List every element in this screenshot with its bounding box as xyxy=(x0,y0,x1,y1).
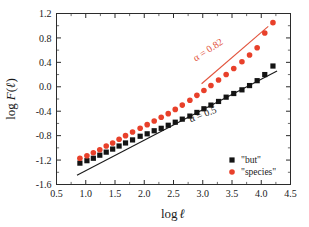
x-tick-label: 4.0 xyxy=(255,188,268,199)
y-axis-title: logF(ℓ) xyxy=(3,78,18,120)
series-species-points xyxy=(77,20,276,161)
annotation-alpha-082: α = 0.82 xyxy=(191,36,225,63)
y-tick-label: -0.4 xyxy=(36,106,52,117)
data-point-square xyxy=(216,99,221,104)
data-point-circle xyxy=(208,83,214,89)
x-tick-label: 2.5 xyxy=(167,188,180,199)
data-point-square xyxy=(270,63,275,68)
data-point-square xyxy=(84,158,89,163)
data-point-circle xyxy=(137,126,143,132)
figure-container: 0.51.01.52.02.53.03.54.04.5 1.20.80.40.0… xyxy=(0,0,309,227)
x-axis-tick-labels: 0.51.01.52.02.53.03.54.04.5 xyxy=(50,188,297,199)
data-point-square xyxy=(116,143,121,148)
data-point-square xyxy=(231,91,236,96)
x-tick-label: 2.0 xyxy=(138,188,151,199)
data-point-square xyxy=(123,140,128,145)
data-point-circle xyxy=(144,122,150,128)
data-point-square xyxy=(159,126,164,131)
data-point-circle xyxy=(187,97,193,103)
data-point-circle xyxy=(194,93,200,99)
data-point-square xyxy=(138,134,143,139)
x-tick-label: 4.5 xyxy=(284,188,297,199)
y-tick-label: -1.2 xyxy=(36,155,52,166)
data-point-circle xyxy=(77,155,83,161)
data-point-circle xyxy=(91,150,97,156)
data-point-square xyxy=(262,72,267,77)
x-axis-title: logℓ xyxy=(161,206,186,221)
legend-marker-square xyxy=(229,157,234,162)
data-point-square xyxy=(180,117,185,122)
data-point-square xyxy=(110,146,115,151)
legend-label: "species" xyxy=(241,167,276,177)
data-point-square xyxy=(247,83,252,88)
data-point-circle xyxy=(270,20,276,26)
data-point-square xyxy=(104,150,109,155)
data-point-circle xyxy=(116,137,122,143)
y-tick-label: 0.4 xyxy=(39,57,52,68)
data-point-circle xyxy=(97,147,103,153)
series-but-points xyxy=(77,63,275,165)
x-tick-label: 1.5 xyxy=(109,188,122,199)
data-point-square xyxy=(77,161,82,166)
data-point-circle xyxy=(239,59,245,65)
y-tick-label: 0.8 xyxy=(39,33,52,44)
data-point-circle xyxy=(158,115,164,121)
data-point-circle xyxy=(123,133,129,139)
data-point-square xyxy=(130,137,135,142)
svg-text:logℓ: logℓ xyxy=(161,206,186,221)
data-point-square xyxy=(173,120,178,125)
data-point-circle xyxy=(231,66,237,72)
data-point-square xyxy=(255,78,260,83)
y-tick-label: -0.8 xyxy=(36,130,52,141)
data-point-circle xyxy=(254,45,260,51)
svg-text:logF(ℓ): logF(ℓ) xyxy=(3,78,18,120)
y-axis-title-prefix: log xyxy=(3,103,18,120)
x-tick-label: 1.0 xyxy=(80,188,93,199)
legend-marker-circle xyxy=(229,169,235,175)
data-point-circle xyxy=(201,88,207,94)
data-point-square xyxy=(239,87,244,92)
x-tick-label: 0.5 xyxy=(50,188,63,199)
scatter-plot: 0.51.01.52.02.53.03.54.04.5 1.20.80.40.0… xyxy=(0,0,309,227)
y-tick-label: -1.6 xyxy=(36,179,52,190)
y-axis-tick-labels: 1.20.80.40.0-0.4-0.8-1.2-1.6 xyxy=(36,8,52,190)
data-point-square xyxy=(91,156,96,161)
data-point-circle xyxy=(110,140,116,146)
data-point-square xyxy=(166,123,171,128)
y-tick-label: 1.2 xyxy=(39,8,52,19)
y-axis-title-close-paren: ) xyxy=(3,78,18,82)
x-tick-label: 3.0 xyxy=(197,188,210,199)
data-point-circle xyxy=(172,107,178,113)
data-point-circle xyxy=(84,153,90,159)
x-axis-title-prefix: log xyxy=(161,206,178,221)
data-point-circle xyxy=(130,129,136,135)
legend: "but""species" xyxy=(229,155,276,177)
data-point-square xyxy=(145,131,150,136)
data-point-circle xyxy=(103,143,109,149)
data-point-square xyxy=(224,95,229,100)
data-point-circle xyxy=(165,111,171,117)
data-point-circle xyxy=(223,72,229,78)
x-axis-title-symbol: ℓ xyxy=(180,206,186,221)
legend-label: "but" xyxy=(241,155,261,165)
data-point-circle xyxy=(247,52,253,58)
data-point-square xyxy=(152,128,157,133)
data-point-circle xyxy=(262,30,268,36)
data-point-circle xyxy=(216,77,222,83)
alpha-0.82-line xyxy=(202,26,269,83)
x-tick-label: 3.5 xyxy=(226,188,239,199)
data-point-circle xyxy=(151,118,157,124)
data-point-circle xyxy=(179,102,185,108)
data-point-square xyxy=(97,153,102,158)
y-tick-label: 0.0 xyxy=(39,81,52,92)
